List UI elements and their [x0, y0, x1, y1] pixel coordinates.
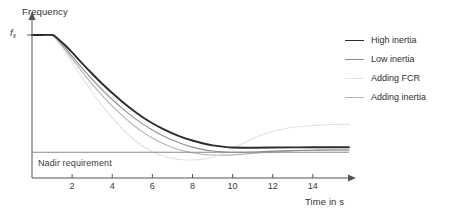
legend-item-adding-inertia[interactable]: Adding inertia: [345, 91, 426, 103]
x-axis-ticks-layer: [72, 174, 313, 178]
frequency-response-chart: Frequency Time in s fx Nadir requirement…: [0, 0, 449, 215]
series-line-adding-fcr: [32, 35, 349, 160]
chart-canvas: [0, 0, 449, 215]
series-line-adding-inertia: [32, 35, 349, 155]
curves-layer: [32, 35, 349, 160]
y-axis-fx-label: fx: [10, 27, 16, 41]
legend-item-low-inertia[interactable]: Low inertia: [345, 53, 426, 65]
x-axis-tick-label: 8: [190, 181, 195, 191]
x-axis-tick-label: 12: [268, 181, 278, 191]
x-axis-tick-label: 10: [228, 181, 238, 191]
legend-swatch: [345, 59, 364, 60]
legend-swatch: [345, 97, 364, 98]
legend-swatch: [345, 78, 364, 79]
series-line-high-inertia: [32, 35, 349, 148]
y-axis-title: Frequency: [22, 6, 68, 17]
legend-label: Adding FCR: [371, 72, 420, 84]
nadir-requirement-label: Nadir requirement: [38, 158, 112, 169]
legend-label: High inertia: [371, 34, 417, 46]
fx-subscript: x: [13, 32, 16, 39]
x-axis-arrowhead: [348, 174, 356, 181]
series-line-low-inertia: [32, 35, 349, 152]
x-axis-tick-label: 6: [150, 181, 155, 191]
x-axis-tick-label: 2: [70, 181, 75, 191]
legend-label: Adding inertia: [371, 91, 426, 103]
legend-item-high-inertia[interactable]: High inertia: [345, 34, 426, 46]
legend-label: Low inertia: [371, 53, 415, 65]
chart-legend: High inertiaLow inertiaAdding FCRAdding …: [345, 34, 426, 103]
legend-swatch: [345, 40, 364, 41]
x-axis-tick-label: 14: [308, 181, 318, 191]
legend-item-adding-fcr[interactable]: Adding FCR: [345, 72, 426, 84]
x-axis-tick-label: 4: [110, 181, 115, 191]
axes-layer: [27, 12, 356, 182]
x-axis-title: Time in s: [305, 196, 344, 207]
